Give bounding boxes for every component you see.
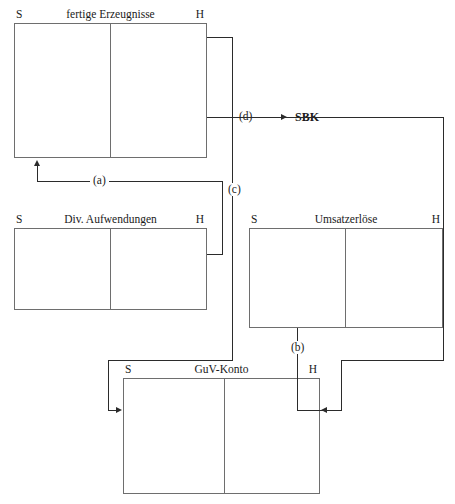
account-center-divider [110,23,111,158]
flow-c-segment-top [207,37,233,38]
flow-label-a: (a) [90,174,109,187]
account-title: fertige Erzeugnisse [14,7,207,22]
diagram-canvas: S fertige Erzeugnisse H AB 500 Zugang 1.… [0,0,455,504]
credit-side-label: H [196,7,204,22]
account-header-guv-konto: S GuV-Konto H [123,362,320,377]
flow-a-segment-out [207,254,223,255]
account-header-umsatzerloese: S Umsatzerlöse H [249,212,443,227]
flow-c-segment-elbow [108,360,233,361]
flow-b-arrowhead [321,407,327,413]
flow-c-arrowhead [116,407,122,413]
account-header-fertige-erzeugnisse: S fertige Erzeugnisse H [14,7,207,22]
account-guv-konto: S GuV-Konto H Umsatz- aufwand xa 600 Gew… [123,378,320,494]
account-frame [123,378,320,494]
account-fertige-erzeugnisse: S fertige Erzeugnisse H AB 500 Zugang 1.… [14,23,207,158]
flow-b-segment-into-guv [297,410,342,411]
account-umsatzerloese: S Umsatzerlöse H Saldo 1.200 Umsatzerlös… [249,228,443,328]
flow-c-segment-vertical [232,37,233,360]
flow-d-segment-far-rail [233,117,444,118]
flow-c-segment-down [108,360,109,410]
account-title: Div. Aufwendungen [14,212,207,227]
flow-a-segment-across [37,181,223,182]
flow-a-arrowhead [34,160,40,166]
account-div-aufwendungen: S Div. Aufwendungen H Aufwand xp 1.000 S… [14,228,207,310]
account-center-divider [110,228,111,310]
flow-b-segment-right-riser [341,360,342,410]
flow-a-segment-up [222,181,223,255]
credit-side-label: H [432,212,440,227]
account-header-div-aufwendungen: S Div. Aufwendungen H [14,212,207,227]
flow-label-b: (b) [288,341,307,354]
account-title: GuV-Konto [123,362,320,377]
account-frame [249,228,443,328]
flow-b-segment-top-rail [341,360,444,361]
account-center-divider [224,378,225,494]
account-title: Umsatzerlöse [249,212,443,227]
flow-d-segment [207,117,233,118]
flow-label-c: (c) [225,183,244,196]
flow-b-segment-far-right [443,117,444,360]
account-center-divider [345,228,346,328]
credit-side-label: H [196,212,204,227]
flow-a-segment-into-zugang [37,166,38,182]
credit-side-label: H [309,362,317,377]
